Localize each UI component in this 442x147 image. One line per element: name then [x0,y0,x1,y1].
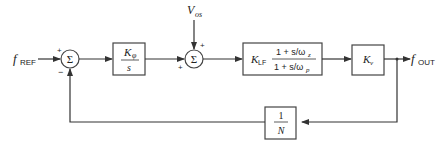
svg-text:Σ: Σ [67,53,73,65]
svg-text:OUT: OUT [418,58,435,67]
plus-sign: + [200,41,205,50]
svg-text:z: z [307,51,311,59]
block-loop-filter: K LF 1 + s/ω z 1 + s/ω p [243,43,322,75]
svg-text:s: s [127,62,131,73]
plus-sign: + [178,63,183,72]
input-label-fref: f REF [13,51,36,67]
svg-text:1 + s/ω: 1 + s/ω [276,47,305,57]
summing-junction-1: Σ + − [57,46,79,77]
svg-text:REF: REF [20,58,36,67]
svg-text:φ: φ [132,51,137,60]
plus-sign: + [57,46,62,55]
block-divider: 1 N [265,107,296,139]
minus-sign: − [58,67,63,77]
block-vco: K v [352,45,384,75]
svg-text:p: p [305,66,310,74]
svg-text:K: K [123,46,132,58]
svg-text:f: f [411,51,417,66]
svg-text:f: f [13,51,19,66]
svg-text:1: 1 [279,110,284,121]
feedback-line-to-sum1 [70,69,265,122]
summing-junction-2: Σ + + [178,41,205,72]
svg-text:N: N [277,125,286,136]
disturbance-label-vos: V os [187,3,202,19]
output-label-fout: f OUT [411,51,435,67]
svg-text:os: os [195,10,202,19]
svg-text:LF: LF [258,59,266,66]
pll-block-diagram: f REF Σ + − K φ s V os Σ + + K LF 1 + s/… [0,0,442,147]
svg-text:Σ: Σ [191,53,197,65]
block-phase-detector: K φ s [113,43,145,75]
svg-text:1 + s/ω: 1 + s/ω [274,62,303,72]
